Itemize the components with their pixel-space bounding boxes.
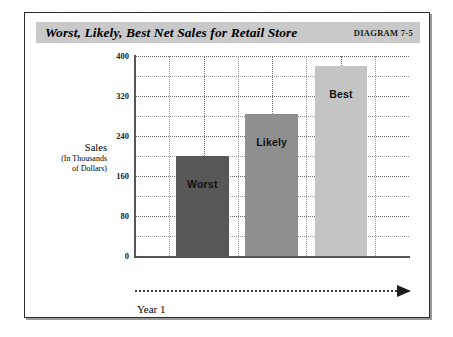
figure-frame: Worst, Likely, Best Net Sales for Retail… [24,12,430,318]
gridline-vertical [375,56,376,256]
gridline-horizontal [135,56,409,57]
y-axis-line [134,55,136,257]
y-axis-tick-label: 400 [89,51,129,61]
bar-worst [176,156,229,256]
y-axis-tick-label: 240 [89,131,129,141]
bar-label-best: Best [315,88,368,100]
x-axis-line [134,256,410,258]
year-axis-arrow-line [135,290,401,292]
y-axis-title-sub-line1: (In Thousands [31,154,107,164]
year-axis-arrow [135,285,415,297]
plot-area: WorstLikelyBest [135,56,409,256]
gridline-vertical [238,56,239,256]
page-title: Worst, Likely, Best Net Sales for Retail… [45,25,297,41]
x-axis-label: Year 1 [137,303,166,315]
gridline-horizontal [135,96,409,97]
y-axis-tick-label: 160 [89,171,129,181]
bar-label-worst: Worst [176,178,229,190]
arrow-right-icon [397,285,411,297]
gridline-vertical [169,56,170,256]
bar-label-likely: Likely [245,136,298,148]
gridline-vertical [306,56,307,256]
title-band: Worst, Likely, Best Net Sales for Retail… [36,22,420,43]
y-axis-title-main: Sales [31,141,107,154]
y-axis-tick-label: 320 [89,91,129,101]
y-axis-title: Sales (In Thousands of Dollars) [31,141,107,174]
y-axis-tick-label: 80 [89,211,129,221]
diagram-number-label: DIAGRAM 7-5 [354,28,413,38]
gridline-horizontal-minor [135,76,409,77]
y-axis-tick-label: 0 [89,251,129,261]
plot-wrapper: WorstLikelyBest 080160240320400 [111,49,411,265]
